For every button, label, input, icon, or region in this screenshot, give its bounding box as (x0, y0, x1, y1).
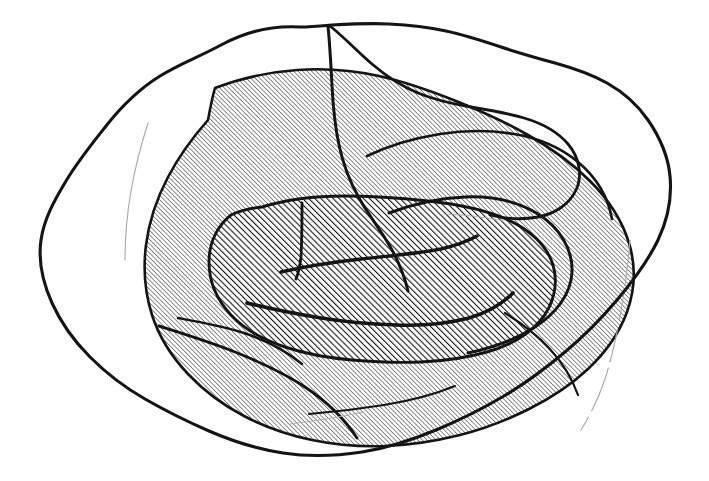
figure-root (0, 0, 709, 481)
anatomical-contour-diagram (0, 0, 709, 481)
